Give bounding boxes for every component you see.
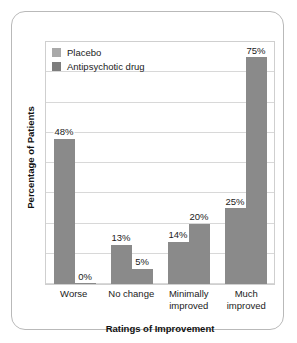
legend-item-placebo: Placebo: [52, 46, 145, 59]
bar-value-label: 13%: [110, 233, 131, 243]
x-tick-label: Muchimproved: [219, 288, 273, 322]
bar-value-label: 0%: [77, 272, 93, 282]
legend-swatch-antipsychotic-drug: [52, 62, 61, 71]
bar-value-label: 20%: [188, 212, 209, 222]
bar-item[interactable]: 20%: [189, 42, 210, 284]
x-tick-label: Minimallyimproved: [162, 288, 216, 322]
bar-item[interactable]: 25%: [225, 42, 246, 284]
bar-item[interactable]: 75%: [246, 42, 267, 284]
bar-value-label: 25%: [224, 197, 245, 207]
bar-value-label: 5%: [134, 257, 150, 267]
bar-group: 14%20%: [168, 42, 210, 284]
bar-value-label: 48%: [53, 127, 74, 137]
x-axis-title: Ratings of Improvement: [45, 323, 275, 334]
bar-group: 48%0%: [54, 42, 96, 284]
legend-label-placebo: Placebo: [67, 48, 101, 58]
legend-swatch-placebo: [52, 48, 61, 57]
chart-plot-area: Placebo Antipsychotic drug 48%0%13%5%14%…: [45, 41, 275, 285]
legend-item-antipsychotic-drug: Antipsychotic drug: [52, 60, 145, 73]
bar[interactable]: [75, 283, 96, 284]
bar[interactable]: [246, 57, 267, 284]
bar-group: 13%5%: [111, 42, 153, 284]
bar-item[interactable]: 5%: [132, 42, 153, 284]
bar[interactable]: [225, 208, 246, 284]
bar-groups: 48%0%13%5%14%20%25%75%: [46, 42, 274, 284]
figure-frame: Placebo Antipsychotic drug 48%0%13%5%14%…: [11, 11, 284, 330]
bar[interactable]: [168, 242, 189, 284]
bar[interactable]: [189, 224, 210, 285]
legend-label-antipsychotic-drug: Antipsychotic drug: [67, 62, 145, 72]
bar-value-label: 75%: [245, 46, 266, 56]
bar-item[interactable]: 0%: [75, 42, 96, 284]
bar[interactable]: [54, 139, 75, 284]
y-axis-title: Percentage of Patients: [25, 78, 36, 238]
bar-item[interactable]: 48%: [54, 42, 75, 284]
bar[interactable]: [132, 269, 153, 284]
bar-item[interactable]: 14%: [168, 42, 189, 284]
bar[interactable]: [111, 245, 132, 284]
bar-group: 25%75%: [225, 42, 267, 284]
bar-value-label: 14%: [167, 230, 188, 240]
bar-item[interactable]: 13%: [111, 42, 132, 284]
x-tick-label: No change: [104, 288, 158, 322]
x-tick-label: Worse: [47, 288, 101, 322]
chart-legend: Placebo Antipsychotic drug: [52, 46, 145, 74]
x-axis-tick-labels: WorseNo changeMinimallyimprovedMuchimpro…: [45, 288, 275, 322]
